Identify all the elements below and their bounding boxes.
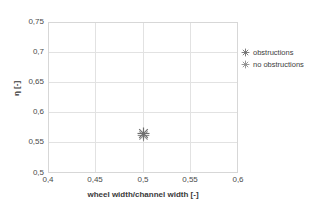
x-axis-tick-label: 0,4	[28, 176, 68, 184]
gridline-vertical	[143, 22, 144, 173]
legend-item-obstructions[interactable]: obstructions	[241, 47, 327, 58]
x-axis-tick-label: 0,5	[123, 176, 163, 184]
x-axis-tick-label: 0,55	[170, 176, 210, 184]
star-marker-icon	[241, 60, 250, 69]
x-axis-title: wheel width/channel width [-]	[48, 190, 238, 199]
y-axis-tick-label: 0,7	[0, 48, 44, 56]
gridline-vertical	[190, 22, 191, 173]
legend-label: obstructions	[253, 48, 293, 57]
legend-label: no obstructions	[253, 60, 304, 69]
gridline-vertical	[95, 22, 96, 173]
x-axis-tick-label: 0,6	[218, 176, 258, 184]
x-axis-tick-label: 0,45	[75, 176, 115, 184]
y-axis-tick-label: 0,65	[0, 78, 44, 86]
gridline-vertical	[48, 22, 49, 173]
chart-legend: obstructions no obstructions	[241, 47, 327, 71]
y-axis-tick-label: 0,55	[0, 138, 44, 146]
y-axis-tick-label: 0,75	[0, 18, 44, 26]
chart-container: 0,75 0,7 0,65 0,6 0,55 0,5 0,4 0,45 0,5 …	[0, 0, 327, 215]
star-marker-icon	[241, 48, 250, 57]
y-axis-tick-label: 0,6	[0, 108, 44, 116]
gridline-vertical	[237, 22, 238, 173]
legend-item-no-obstructions[interactable]: no obstructions	[241, 59, 327, 70]
y-axis-title: η [-]	[12, 81, 21, 96]
plot-area	[48, 22, 238, 173]
